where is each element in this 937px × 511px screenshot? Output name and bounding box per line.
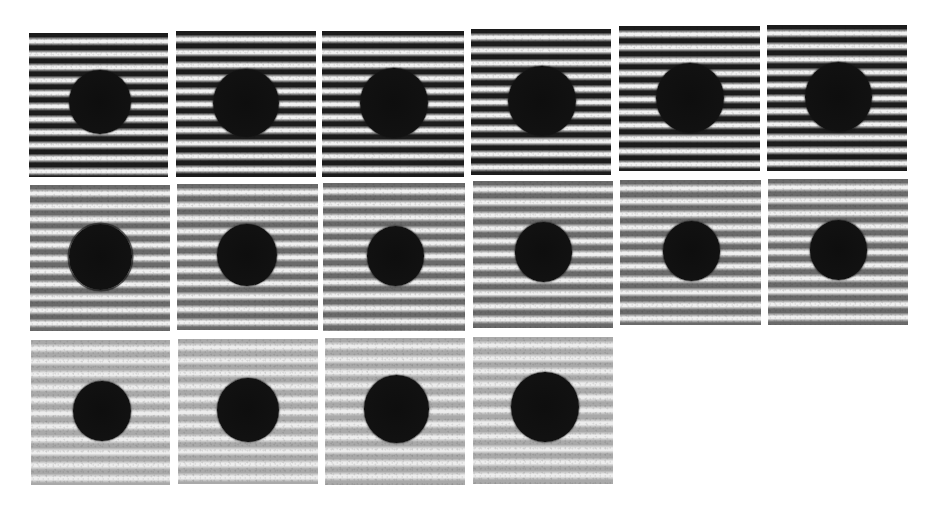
fringe-panel-9: [323, 183, 465, 331]
fringe-panel-1: [29, 33, 168, 177]
dark-spot: [511, 372, 579, 443]
dark-spot: [663, 221, 720, 280]
fringe-panel-12: [768, 179, 908, 325]
fringe-panel-11: [620, 180, 761, 325]
dark-spot: [217, 378, 279, 442]
fringe-panel-5: [619, 26, 760, 171]
dark-spot: [360, 68, 428, 139]
fringe-panel-8: [177, 184, 318, 330]
dark-spot: [213, 69, 279, 138]
fringe-panel-10: [473, 181, 613, 328]
fringe-panel-7: [30, 185, 170, 331]
fringe-panel-4: [471, 29, 611, 175]
dark-spot: [656, 63, 724, 134]
dark-spot: [367, 226, 424, 285]
fringe-panel-14: [178, 339, 318, 484]
fringe-panel-2: [176, 31, 316, 177]
fringe-panel-13: [31, 340, 170, 485]
dark-spot: [810, 220, 867, 279]
fringe-pattern-figure: [0, 0, 937, 511]
fringe-panel-6: [767, 25, 907, 171]
dark-spot: [805, 62, 872, 132]
dark-spot: [364, 375, 429, 443]
dark-spot: [217, 224, 277, 286]
dark-spot: [515, 222, 572, 281]
dark-spot: [69, 70, 131, 134]
fringe-panel-15: [325, 338, 465, 485]
fringe-panel-16: [473, 337, 613, 484]
dark-spot: [508, 66, 576, 137]
fringe-panel-3: [322, 31, 464, 177]
dark-spot: [69, 224, 132, 290]
dark-spot: [73, 381, 131, 441]
